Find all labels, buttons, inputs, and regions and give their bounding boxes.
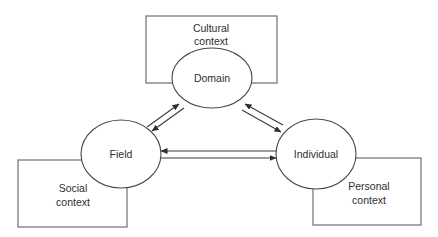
individual-label: Individual [294, 148, 338, 160]
individual-node: Individual [276, 119, 356, 189]
field-node: Field [81, 120, 161, 188]
domain-node: Domain [172, 48, 252, 108]
domain-label: Domain [194, 72, 230, 84]
arrows [147, 104, 283, 158]
field-label: Field [110, 148, 133, 160]
cultural-context-label-line1: Cultural [193, 22, 229, 34]
personal-context-label-line1: Personal [348, 180, 389, 192]
personal-context-label-line2: context [352, 194, 386, 206]
systems-diagram: Cultural context Social context Personal… [0, 0, 438, 237]
cultural-context-label-line2: context [194, 35, 228, 47]
social-context-label-line2: context [56, 196, 90, 208]
social-context-label-line1: Social [59, 182, 88, 194]
